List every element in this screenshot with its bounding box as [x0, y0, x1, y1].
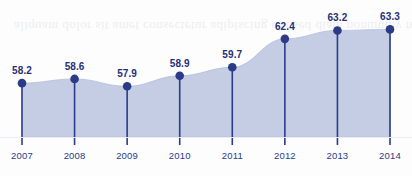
data-point-marker[interactable]: [228, 63, 237, 72]
data-point-value-label: 58.2: [12, 65, 32, 76]
area-fill-path: [22, 29, 390, 137]
data-point-value-label: 62.4: [275, 21, 295, 32]
data-point-marker[interactable]: [281, 35, 290, 44]
chart-plot-area: [0, 0, 412, 176]
data-point-value-label: 58.6: [65, 61, 85, 72]
data-point-value-label: 57.9: [117, 68, 137, 79]
data-point-marker[interactable]: [386, 25, 395, 34]
x-axis-tick-label: 2010: [169, 150, 191, 161]
data-point-value-label: 59.7: [222, 49, 242, 60]
x-axis-tick-label: 2011: [222, 150, 243, 161]
x-axis-tick-label: 2012: [274, 150, 296, 161]
data-point-value-label: 63.3: [380, 11, 400, 22]
data-point-marker[interactable]: [70, 75, 79, 84]
data-point-marker[interactable]: [18, 79, 27, 88]
data-point-value-label: 58.9: [170, 58, 190, 69]
x-axis-tick-label: 2007: [11, 150, 33, 161]
x-axis-tick-label: 2009: [116, 150, 138, 161]
area-chart: aliquam dolor sit amet consectetur adipi…: [0, 0, 412, 176]
data-point-marker[interactable]: [333, 26, 342, 35]
data-point-marker[interactable]: [175, 71, 184, 80]
data-point-marker[interactable]: [123, 82, 132, 91]
x-axis-tick-label: 2014: [379, 150, 401, 161]
x-axis-tick-label: 2008: [64, 150, 86, 161]
data-point-value-label: 63.2: [327, 12, 347, 23]
x-axis-tick-label: 2013: [326, 150, 348, 161]
